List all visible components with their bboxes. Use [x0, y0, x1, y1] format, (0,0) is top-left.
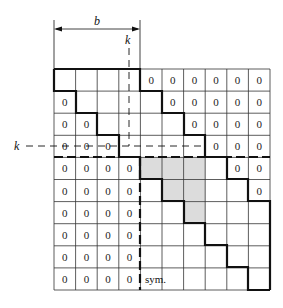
zero-entry: 0 — [170, 74, 176, 86]
shaded-cell — [184, 202, 206, 224]
zero-entry: 0 — [192, 74, 198, 86]
zero-entry: 0 — [213, 118, 219, 130]
zero-entry: 0 — [235, 74, 241, 86]
zero-entry: 0 — [127, 251, 133, 263]
zero-entry: 0 — [62, 251, 68, 263]
arrowhead-left-icon — [54, 27, 62, 32]
zero-entry: 0 — [62, 96, 68, 108]
k-left-label: k — [14, 139, 20, 153]
zero-entry: 0 — [62, 118, 68, 130]
zero-entry: 0 — [84, 162, 90, 174]
zero-entry: 0 — [105, 229, 111, 241]
shaded-cell — [140, 157, 162, 179]
zero-entry: 0 — [127, 207, 133, 219]
zero-entry: 0 — [62, 162, 68, 174]
zero-entry: 0 — [235, 140, 241, 152]
shaded-cell — [184, 157, 206, 179]
zero-entry: 0 — [62, 185, 68, 197]
zero-entry: 0 — [84, 229, 90, 241]
zero-entry: 0 — [84, 185, 90, 197]
zero-entry: 0 — [105, 251, 111, 263]
bandwidth-label: b — [94, 14, 100, 28]
zero-entry: 0 — [256, 185, 262, 197]
banded-matrix-diagram: 0000000000000000000000000000000000000000… — [0, 0, 283, 308]
zero-entry: 0 — [192, 96, 198, 108]
zero-entry: 0 — [62, 229, 68, 241]
zero-entry: 0 — [213, 140, 219, 152]
zero-entry: 0 — [192, 118, 198, 130]
zero-entry: 0 — [105, 162, 111, 174]
zero-entry: 0 — [256, 162, 262, 174]
zero-entry: 0 — [105, 207, 111, 219]
zero-entry: 0 — [256, 140, 262, 152]
zero-entry: 0 — [170, 96, 176, 108]
zero-entry: 0 — [235, 162, 241, 174]
zero-entry: 0 — [84, 207, 90, 219]
zero-entry: 0 — [127, 185, 133, 197]
k-top-label: k — [125, 33, 131, 47]
zero-entry: 0 — [127, 273, 133, 285]
zero-entry: 0 — [213, 96, 219, 108]
zero-entry: 0 — [127, 162, 133, 174]
zero-entry: 0 — [84, 251, 90, 263]
zero-entry: 0 — [235, 96, 241, 108]
zero-entry: 0 — [148, 74, 154, 86]
zero-entry: 0 — [105, 273, 111, 285]
symmetric-label: sym. — [145, 273, 166, 285]
shaded-cell — [184, 180, 206, 202]
zero-entry: 0 — [62, 273, 68, 285]
zero-entry: 0 — [235, 118, 241, 130]
zero-entry: 0 — [256, 74, 262, 86]
zero-entry: 0 — [84, 273, 90, 285]
shaded-cell — [162, 157, 184, 179]
zero-entry: 0 — [84, 118, 90, 130]
zero-entry: 0 — [105, 185, 111, 197]
shaded-cell — [162, 180, 184, 202]
zero-entry: 0 — [256, 96, 262, 108]
zero-entry: 0 — [213, 74, 219, 86]
zero-entry: 0 — [62, 207, 68, 219]
zero-entry: 0 — [127, 229, 133, 241]
zero-entry: 0 — [256, 118, 262, 130]
arrowhead-right-icon — [132, 27, 140, 32]
shaded-submatrix — [140, 157, 205, 223]
